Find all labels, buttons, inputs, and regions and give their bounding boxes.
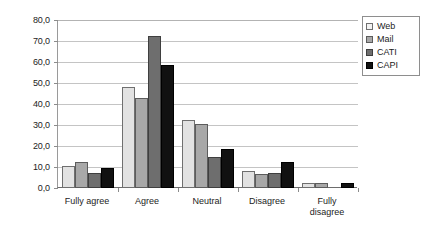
y-axis-tick-label: 60,0 bbox=[10, 58, 50, 67]
legend-item: CAPI bbox=[366, 59, 416, 72]
bar bbox=[88, 173, 101, 188]
bar bbox=[208, 157, 221, 189]
y-axis-tick-label: 0,0 bbox=[10, 184, 50, 193]
bar-group bbox=[182, 20, 234, 188]
bar bbox=[315, 183, 328, 188]
bar bbox=[242, 171, 255, 188]
y-axis-tick-label: 40,0 bbox=[10, 100, 50, 109]
bar bbox=[255, 174, 268, 188]
bar bbox=[182, 120, 195, 188]
bar-chart: 0,010,020,030,040,050,060,070,080,0 Full… bbox=[0, 0, 429, 231]
bar-group bbox=[62, 20, 114, 188]
legend-item: Web bbox=[366, 20, 416, 33]
legend-item: Mail bbox=[366, 33, 416, 46]
legend-label: CAPI bbox=[377, 61, 398, 70]
legend-swatch-icon bbox=[366, 62, 373, 69]
bar bbox=[302, 183, 315, 188]
x-axis-tick-mark bbox=[118, 188, 119, 192]
bar bbox=[341, 183, 354, 188]
bar bbox=[221, 149, 234, 188]
legend-swatch-icon bbox=[366, 36, 373, 43]
y-axis-tick-label: 10,0 bbox=[10, 163, 50, 172]
bar bbox=[122, 87, 135, 188]
bar bbox=[161, 65, 174, 188]
bar-group bbox=[242, 20, 294, 188]
x-axis-tick-mark bbox=[178, 188, 179, 192]
bar bbox=[195, 124, 208, 188]
y-axis-tick-label: 80,0 bbox=[10, 16, 50, 25]
y-axis-tick-label: 20,0 bbox=[10, 142, 50, 151]
x-axis-category-label: Disagree bbox=[237, 196, 297, 207]
bar bbox=[268, 173, 281, 188]
plot-area bbox=[57, 20, 357, 188]
legend-item: CATI bbox=[366, 46, 416, 59]
bar bbox=[75, 162, 88, 188]
bar bbox=[101, 168, 114, 188]
legend-label: Web bbox=[377, 22, 395, 31]
legend: WebMailCATICAPI bbox=[362, 16, 420, 76]
x-axis-tick-mark bbox=[298, 188, 299, 192]
legend-swatch-icon bbox=[366, 23, 373, 30]
x-axis-category-label: Fully disagree bbox=[297, 196, 357, 218]
legend-label: CATI bbox=[377, 48, 397, 57]
y-axis-tick-label: 70,0 bbox=[10, 37, 50, 46]
x-axis-category-label: Neutral bbox=[177, 196, 237, 207]
y-axis-tick-label: 50,0 bbox=[10, 79, 50, 88]
bar bbox=[148, 36, 161, 188]
y-axis-tick-label: 30,0 bbox=[10, 121, 50, 130]
bar bbox=[135, 98, 148, 188]
bars-layer bbox=[58, 20, 358, 188]
legend-swatch-icon bbox=[366, 49, 373, 56]
x-axis-tick-mark bbox=[238, 188, 239, 192]
bar-group bbox=[302, 20, 354, 188]
x-axis-category-label: Fully agree bbox=[57, 196, 117, 207]
bar bbox=[62, 166, 75, 188]
bar-group bbox=[122, 20, 174, 188]
y-axis-tick-mark bbox=[54, 188, 58, 189]
legend-label: Mail bbox=[377, 35, 394, 44]
x-axis-tick-mark bbox=[358, 188, 359, 192]
bar bbox=[281, 162, 294, 188]
x-axis-category-label: Agree bbox=[117, 196, 177, 207]
